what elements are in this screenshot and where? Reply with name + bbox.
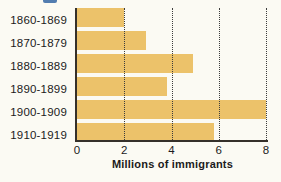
y-axis-line [75,8,77,142]
x-axis-tick-labels: 02468 [0,144,281,157]
category-label-1880-1889: 1880-1889 [0,54,72,77]
x-axis-title: Millions of immigrants [77,158,268,170]
immigration-chart-figure: 1860-18691870-18791880-18891890-18991900… [0,0,281,182]
bar-1860-1869 [77,8,124,27]
x-tick-8: 8 [255,144,277,156]
category-label-1900-1909: 1900-1909 [0,100,72,123]
x-tick-6: 6 [208,144,230,156]
bar-1880-1889 [77,54,193,73]
plot-area [77,8,281,140]
bar-1890-1899 [77,77,167,96]
x-tick-0: 0 [66,144,88,156]
cropped-blue-title-fragment [43,0,57,3]
x-tick-2: 2 [113,144,135,156]
x-tick-4: 4 [161,144,183,156]
gridline-8 [266,8,267,140]
gridline-4 [172,8,173,140]
category-axis-labels: 1860-18691870-18791880-18891890-18991900… [0,8,72,146]
category-label-1910-1919: 1910-1919 [0,123,72,146]
gridline-6 [219,8,220,140]
bar-1870-1879 [77,31,146,50]
category-label-1890-1899: 1890-1899 [0,77,72,100]
x-axis-line [75,140,268,142]
category-label-1860-1869: 1860-1869 [0,8,72,31]
gridline-2 [124,8,125,140]
category-label-1870-1879: 1870-1879 [0,31,72,54]
